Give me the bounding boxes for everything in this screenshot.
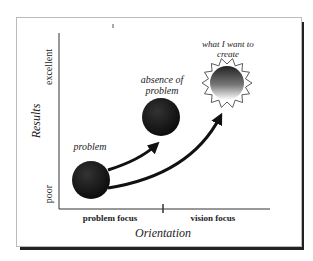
- arrow-to-absence: [108, 145, 156, 170]
- problem-label: problem: [73, 141, 107, 152]
- absence-node: [142, 98, 180, 136]
- create-label-2: create: [217, 49, 239, 59]
- create-label-1: what I want to: [202, 39, 254, 49]
- absence-label-1: absence of: [141, 74, 185, 85]
- absence-label-2: problem: [145, 85, 179, 96]
- y-low-label: poor: [43, 184, 54, 203]
- x-axis-title: Orientation: [135, 226, 191, 240]
- diagram: excellent poor Results problem focus vis…: [0, 0, 313, 261]
- vision-node: [210, 66, 244, 100]
- x-left-label: problem focus: [83, 213, 138, 223]
- problem-node: [72, 161, 110, 199]
- y-high-label: excellent: [43, 49, 54, 85]
- x-right-label: vision focus: [191, 213, 236, 223]
- y-axis-title: Results: [29, 103, 43, 139]
